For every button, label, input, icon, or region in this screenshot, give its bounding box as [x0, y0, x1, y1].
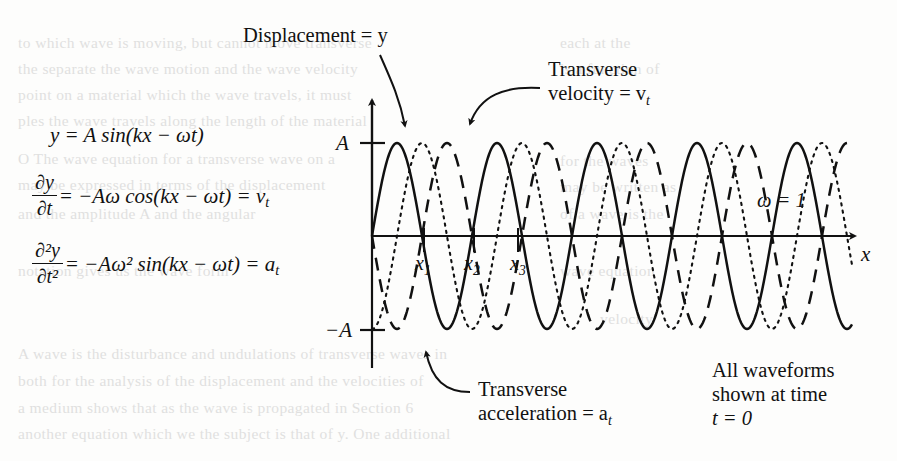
x-axis-label: x	[861, 242, 870, 267]
omega-note: ω = 1	[757, 188, 806, 212]
callout-transverse-acceleration: Transverse acceleration = at	[478, 377, 612, 430]
callout-velocity-line2: velocity = vt	[548, 81, 650, 110]
callout-velocity-line1: Transverse	[548, 57, 650, 81]
figure-root: to which wave is moving, but cannot move…	[0, 0, 897, 461]
arrow-to-acceleration-curve	[426, 352, 470, 392]
x-axis	[372, 228, 855, 252]
x-tick-label-2: x2	[464, 252, 480, 279]
callout-acceleration-line1: Transverse	[478, 377, 612, 401]
time-note-line2: shown at time	[712, 382, 834, 406]
callout-displacement-text: Displacement = y	[243, 24, 388, 46]
x-tick-label-3: x3	[510, 252, 526, 279]
callout-transverse-velocity: Transverse velocity = vt	[548, 57, 650, 110]
callout-displacement: Displacement = y	[243, 23, 388, 47]
callout-arrows	[380, 55, 540, 392]
y-axis-tick-label-A: A	[336, 131, 349, 156]
arrow-to-displacement-curve	[380, 55, 405, 126]
y-axis-tick-label-negative-A: −A	[325, 318, 352, 343]
time-note-line1: All waveforms	[712, 358, 834, 382]
time-note-line3: t = 0	[712, 406, 834, 430]
callout-acceleration-line2: acceleration = at	[478, 401, 612, 430]
arrow-to-velocity-curve	[470, 88, 540, 124]
callout-time-note: All waveforms shown at time t = 0	[712, 358, 834, 431]
x-tick-label-1: x1	[415, 252, 431, 279]
